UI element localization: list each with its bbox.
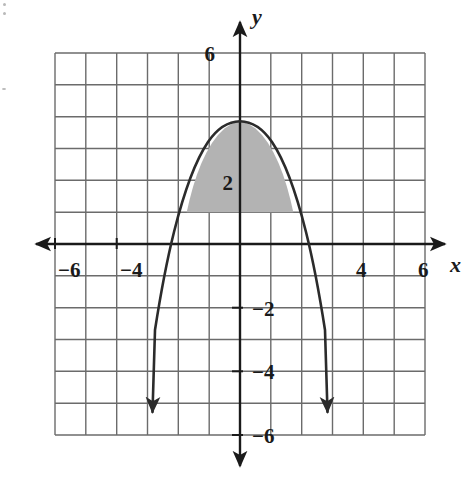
axis-lines <box>36 22 445 466</box>
y-axis-ticks <box>232 308 243 435</box>
y-tick-label--4: −4 <box>252 360 275 384</box>
y-axis-label: y <box>249 4 262 29</box>
figure-root: −6 −4 4 6 6 2 −2 −4 −6 y x <box>0 0 468 481</box>
scan-speck <box>3 3 6 6</box>
x-tick-label-6: 6 <box>418 258 429 282</box>
x-tick-label-4: 4 <box>356 258 367 282</box>
x-axis-label: x <box>449 252 461 277</box>
coordinate-plane: −6 −4 4 6 6 2 −2 −4 −6 y x <box>0 0 468 481</box>
y-tick-label--6: −6 <box>252 424 274 448</box>
y-tick-label-6: 6 <box>205 42 216 66</box>
y-tick-label-2: 2 <box>223 171 234 195</box>
y-tick-label--2: −2 <box>252 297 274 321</box>
scan-speck <box>2 88 6 90</box>
x-tick-label--4: −4 <box>120 258 143 282</box>
x-tick-label--6: −6 <box>58 258 80 282</box>
scan-speck <box>3 12 6 15</box>
